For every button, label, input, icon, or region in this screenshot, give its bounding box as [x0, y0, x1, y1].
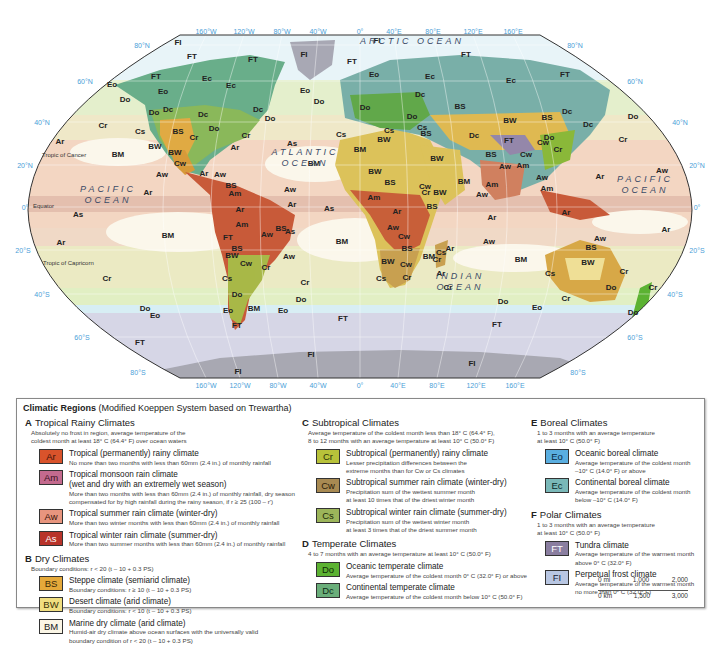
region-label: Aw: [214, 171, 226, 179]
graticule-label: 80°E: [425, 28, 440, 35]
region-label: Ec: [425, 73, 435, 81]
region-label: Do: [232, 291, 243, 299]
legend-item-cs: CsSubtropical winter rain climate (summe…: [316, 508, 527, 535]
legend-item-cr: CrSubtropical (permanently) rainy climat…: [316, 449, 527, 476]
region-label: Cw: [520, 151, 532, 159]
legend-item-title: (wet and dry with an extremely wet seaso…: [69, 480, 295, 490]
region-label: Cw: [174, 160, 186, 168]
region-label: Aw: [387, 224, 399, 232]
legend-item-text: Continental temperate climateAverage tem…: [346, 583, 522, 601]
group-letter: C: [302, 417, 309, 428]
region-label: Cr: [422, 189, 431, 197]
region-label: Eo: [300, 87, 310, 95]
region-label: Ar: [488, 214, 497, 222]
region-label: Ar: [57, 239, 66, 247]
region-label: As: [285, 228, 295, 236]
region-label: BS: [420, 130, 431, 138]
legend-item-title: Continental boreal climate: [575, 478, 690, 488]
region-label: Ar: [596, 173, 605, 181]
legend-item-am: AmTropical monsoon rain climate(wet and …: [39, 470, 295, 506]
legend-item-ar: ArTropical (permanently) rainy climateNo…: [39, 449, 295, 467]
region-label: FT: [232, 322, 242, 330]
climate-group-heading: ATropical Rainy Climates: [25, 417, 295, 428]
region-label: FI: [307, 351, 314, 359]
scale-km: 0 km 1,500 3,000: [598, 592, 688, 599]
ocean-label-line: OCEAN: [617, 185, 673, 196]
legend-item-title: Subtropical (permanently) rainy climate: [346, 449, 488, 459]
region-label: Am: [229, 190, 242, 198]
legend-item-title: Steppe climate (semiarid climate): [69, 576, 191, 586]
group-name: Temperate Climates: [312, 538, 396, 549]
climate-group-a: ATropical Rainy ClimatesAbsolutely no fr…: [25, 417, 295, 549]
region-label: Eo: [369, 71, 379, 79]
region-label: BS: [172, 128, 183, 136]
region-label: FT: [347, 58, 357, 66]
region-label: BS: [541, 114, 552, 122]
region-label: Dc: [163, 106, 173, 114]
legend-item-title: Subtropical summer rain climate (winter-…: [346, 478, 507, 488]
legend-item-description: –10° C (14.0° F) or above: [575, 467, 690, 475]
region-label: Do: [498, 298, 509, 306]
color-swatch: Eo: [545, 449, 569, 464]
region-label: Ec: [506, 77, 516, 85]
region-label: Do: [296, 296, 307, 304]
region-label: BM: [515, 256, 527, 264]
legend-panel: Climatic Regions (Modified Koeppen Syste…: [16, 398, 705, 608]
ocean-label-line: OCEAN: [272, 158, 339, 169]
ocean-label: INDIANOCEAN: [436, 271, 485, 294]
graticule-label: 40°S: [34, 291, 49, 298]
legend-item-title: Oceanic temperate climate: [346, 562, 527, 572]
climate-group-heading: BDry Climates: [25, 553, 295, 564]
color-swatch: Aw: [39, 509, 63, 524]
graticule-label: 120°E: [463, 28, 482, 35]
reference-line-label: Tropic of Cancer: [42, 152, 86, 158]
region-label: Cr: [262, 264, 271, 272]
group-letter: F: [531, 509, 537, 520]
region-label: Cs: [376, 275, 386, 283]
scale-km-1: 1,500: [634, 592, 650, 599]
region-label: FT: [560, 71, 570, 79]
ocean-label-line: OCEAN: [80, 195, 136, 206]
graticule-label: 20°N: [689, 162, 705, 169]
region-label: FT: [461, 51, 471, 59]
legend-item-as: AsTropical winter rain climate (summer-d…: [39, 531, 295, 549]
ocean-label: PACIFICOCEAN: [617, 174, 673, 197]
legend-item-title: Tropical (permanently) rainy climate: [69, 449, 271, 459]
region-label: Do: [407, 113, 418, 121]
group-name: Tropical Rainy Climates: [35, 417, 135, 428]
region-label: Cs: [384, 127, 394, 135]
graticule-label: 120°W: [233, 28, 254, 35]
legend-column-ef: EBoreal Climates1 to 3 months with an av…: [531, 417, 694, 601]
legend-item-title: Desert climate (arid climate): [69, 597, 191, 607]
group-description: coldest month at least 18° C (64.4° F) o…: [31, 437, 295, 445]
region-label: Dc: [562, 108, 572, 116]
graticule-label: 20°S: [15, 247, 30, 254]
climate-group-c: CSubtropical ClimatesAverage temperature…: [302, 417, 527, 534]
graticule-label: 0°: [694, 204, 701, 211]
climate-group-heading: CSubtropical Climates: [302, 417, 527, 428]
legend-item-title: Subtropical winter rain climate (summer-…: [346, 508, 507, 518]
graticule-label: 0°: [22, 204, 29, 211]
graticule-label: 120°W: [229, 382, 250, 389]
region-label: FI: [468, 360, 475, 368]
graticule-label: 60°S: [627, 334, 642, 341]
region-label: Am: [236, 221, 249, 229]
graticule-label: 160°W: [195, 382, 216, 389]
region-label: Ar: [200, 170, 209, 178]
region-label: BW: [368, 168, 381, 176]
legend-item-text: Continental boreal climateAverage temper…: [575, 478, 690, 505]
legend-title: Climatic Regions (Modified Koeppen Syste…: [23, 403, 292, 413]
graticule-label: 80°S: [130, 369, 145, 376]
group-letter: E: [531, 417, 537, 428]
region-label: Do: [120, 96, 131, 104]
scale-km-0: 0 km: [598, 592, 612, 599]
climate-group-b: BDry ClimatesBoundary conditions: r < 20…: [25, 553, 295, 645]
legend-item-text: Oceanic temperate climateAverage tempera…: [346, 562, 527, 580]
scale-mi-0: 0 mi: [598, 576, 610, 583]
color-swatch: Ec: [545, 478, 569, 493]
region-label: Ar: [56, 138, 65, 146]
legend-item-title: Continental temperate climate: [346, 583, 522, 593]
ocean-label-line: INDIAN: [436, 271, 485, 282]
region-label: Am: [368, 194, 381, 202]
legend-item-text: Tropical (permanently) rainy climateNo m…: [69, 449, 271, 467]
